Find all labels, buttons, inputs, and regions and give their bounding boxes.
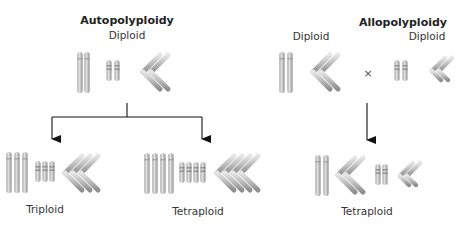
auto-diploid-karyotype xyxy=(77,52,168,93)
auto-branch-arrows xyxy=(52,103,202,139)
short-chromosome-icon xyxy=(107,60,120,81)
long-chromosome-icon xyxy=(315,155,328,196)
allo-parent1-karyotype xyxy=(279,52,338,93)
allo-parent2-karyotype xyxy=(395,58,453,81)
auto-title: Autopolyploidy xyxy=(80,14,174,27)
auto-triploid-karyotype xyxy=(6,152,98,193)
long-chromosome-icon xyxy=(6,152,27,193)
short-chromosome-icon xyxy=(180,162,206,183)
allo-title: Allopolyploidy xyxy=(359,16,447,29)
short-chromosome-icon xyxy=(36,161,55,182)
auto-parent-label: Diploid xyxy=(109,29,146,41)
cross-symbol: × xyxy=(363,67,372,80)
allo-parent2-label: Diploid xyxy=(409,30,446,42)
allo-tetraploid-karyotype xyxy=(315,155,420,196)
long-chromosome-icon xyxy=(279,52,292,93)
allo-parent1-label: Diploid xyxy=(293,30,330,42)
v-chromosome-icon xyxy=(65,156,98,190)
short-chromosome-icon xyxy=(395,60,408,81)
v-chromosome-icon xyxy=(143,55,168,89)
v-chromosome-icon xyxy=(432,58,452,80)
v-chromosome-icon xyxy=(217,156,258,190)
long-chromosome-icon xyxy=(77,52,89,93)
allo-tetraploid-label: Tetraploid xyxy=(341,205,393,217)
auto-triploid-label: Triploid xyxy=(26,203,64,215)
v-chromosome-icon xyxy=(400,163,420,185)
auto-tetraploid-label: Tetraploid xyxy=(172,205,224,217)
v-chromosome-icon xyxy=(338,158,363,192)
short-chromosome-icon xyxy=(376,164,388,185)
autopolyploidy-panel xyxy=(6,52,258,194)
polyploidy-diagram xyxy=(0,0,464,227)
long-chromosome-icon xyxy=(144,153,173,194)
v-chromosome-icon xyxy=(313,55,338,89)
auto-tetraploid-karyotype xyxy=(144,153,258,194)
